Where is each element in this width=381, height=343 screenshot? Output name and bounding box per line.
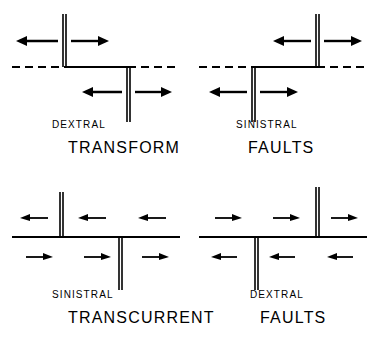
shear-arrow-above-2 <box>78 214 106 221</box>
label-sinistral-transcurrent-sense: SINISTRAL <box>52 290 114 300</box>
label-transcurrent-type: TRANSCURRENT <box>68 310 215 326</box>
label-sinistral-transform-sense: SINISTRAL <box>236 120 298 130</box>
spreading-arrow-lower-right <box>260 87 298 97</box>
label-faults-type-bottom: FAULTS <box>260 310 326 326</box>
spreading-arrow-upper-right <box>71 36 109 46</box>
spreading-arrow-upper-left <box>273 36 311 46</box>
spreading-arrow-upper-right <box>324 36 362 46</box>
shear-arrow-above-3 <box>331 214 358 221</box>
shear-arrow-above-1 <box>215 214 242 221</box>
spreading-arrow-lower-left <box>82 87 122 97</box>
spreading-arrow-lower-left <box>209 87 247 97</box>
shear-arrow-above-1 <box>20 214 48 221</box>
shear-arrow-below-2 <box>269 253 295 260</box>
label-dextral-transcurrent-sense: DEXTRAL <box>250 290 304 300</box>
spreading-arrow-upper-left <box>16 36 58 46</box>
shear-arrow-below-3 <box>142 253 169 260</box>
shear-arrow-above-3 <box>138 214 166 221</box>
shear-arrow-below-1 <box>26 253 53 260</box>
label-transform-type: TRANSFORM <box>68 140 180 156</box>
label-faults-type-top: FAULTS <box>248 140 314 156</box>
shear-arrow-below-1 <box>211 253 237 260</box>
fault-diagram-figure: DEXTRAL TRANSFORM SINISTRAL FAULTS SINIS… <box>0 0 381 343</box>
spreading-arrow-lower-right <box>135 87 172 97</box>
shear-arrow-below-3 <box>327 253 353 260</box>
shear-arrow-below-2 <box>84 253 111 260</box>
shear-arrow-above-2 <box>273 214 300 221</box>
label-dextral-transform-sense: DEXTRAL <box>52 120 106 130</box>
